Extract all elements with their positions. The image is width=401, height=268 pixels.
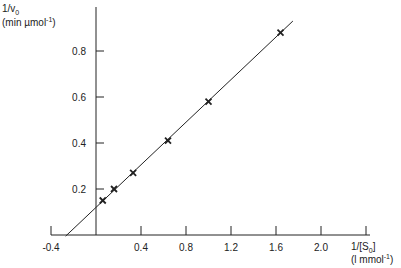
data-point [278,30,284,36]
x-tick-label: 1.2 [224,242,238,253]
y-axis-title: 1/v0 [2,3,19,16]
y-tick-label: 0.8 [72,46,86,57]
x-tick-label: 0.8 [179,242,193,253]
x-tick-label: -0.4 [42,242,60,253]
data-point [100,198,106,204]
x-tick-label: 2.0 [314,242,328,253]
x-tick-label: 1.6 [269,242,283,253]
ticks [51,51,366,235]
fit-line [66,21,293,236]
y-axis-units: (min µmol-1) [2,16,56,28]
x-tick-label: 0.4 [134,242,148,253]
axis-titles: 1/v0 (min µmol-1) 1/[S0] (l mmol-1) [2,3,393,265]
data-point [206,99,212,105]
tick-labels: -0.40.40.81.21.62.00.20.40.60.8 [42,46,328,253]
y-tick-label: 0.6 [72,92,86,103]
lineweaver-burk-plot: -0.40.40.81.21.62.00.20.40.60.8 1/v0 (mi… [0,0,401,268]
y-tick-label: 0.4 [72,138,86,149]
y-tick-label: 0.2 [72,184,86,195]
x-axis-units: (l mmol-1) [351,253,393,265]
fit-line-group [66,21,293,236]
data-point [130,170,136,176]
x-axis-title: 1/[S0] [351,241,376,254]
axes [51,7,370,235]
